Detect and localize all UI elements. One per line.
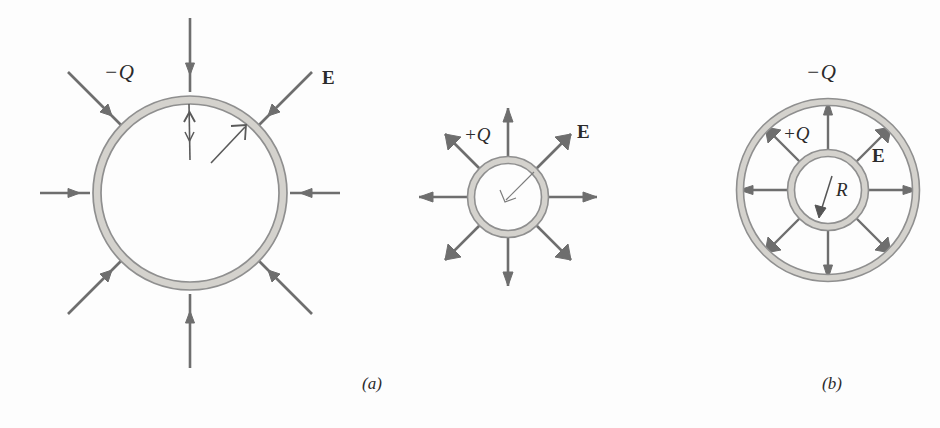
panel-b-caption: (b) — [822, 375, 842, 392]
field-arrow-sw — [68, 261, 121, 314]
pencil-diagonal-arrow-icon — [211, 125, 246, 163]
panel-b-field-label: E — [872, 146, 885, 165]
panel-a-field-arrows — [40, 18, 340, 368]
figure-canvas: −Q E (a) +Q E −Q +Q E R (b) — [0, 0, 940, 428]
field-arrow-top — [186, 18, 195, 92]
panel-b-group — [737, 99, 920, 282]
field-arrow-bottom — [186, 294, 195, 368]
panel-a-group — [40, 18, 340, 368]
field-arrow-bottom — [503, 235, 513, 286]
field-arrow-bottom — [824, 229, 833, 279]
field-arrow-left — [40, 189, 90, 198]
panel-b-inner-charge-label: +Q — [783, 124, 810, 143]
field-arrow-top — [824, 101, 833, 151]
panel-middle-shell-outer-edge — [468, 157, 549, 238]
panel-a-field-label: E — [322, 68, 335, 87]
panel-b-outer-charge-label: −Q — [806, 62, 836, 83]
pencil-up-arrow-icon — [184, 104, 195, 160]
panel-middle-shell — [471, 160, 545, 234]
field-arrow-left — [739, 186, 789, 195]
field-arrow-right — [546, 192, 597, 202]
panel-middle-shell-inner-edge — [475, 164, 542, 231]
field-arrow-se — [855, 217, 891, 253]
field-arrow-left — [419, 192, 470, 202]
field-arrow-top — [503, 108, 513, 159]
panel-b-radius-label: R — [836, 180, 848, 199]
panel-middle-charge-label: +Q — [464, 125, 491, 144]
field-arrow-ne — [259, 72, 312, 125]
panel-a-charge-label: −Q — [104, 62, 134, 83]
panel-middle-radius-arrow — [500, 172, 534, 202]
panel-a-caption: (a) — [362, 375, 382, 392]
panel-middle-field-arrows — [419, 108, 597, 286]
field-arrow-ne — [535, 134, 571, 170]
field-arrow-se — [535, 224, 571, 260]
field-arrow-se — [259, 261, 312, 314]
field-arrow-sw — [445, 224, 481, 260]
field-arrow-sw — [765, 217, 801, 253]
panel-middle-field-label: E — [577, 122, 590, 141]
panel-middle-group — [419, 108, 597, 286]
field-arrow-right — [867, 186, 917, 195]
panel-b-radius-arrow — [815, 176, 832, 218]
field-arrow-right — [290, 189, 340, 198]
electrostatics-diagram-svg — [0, 0, 940, 428]
